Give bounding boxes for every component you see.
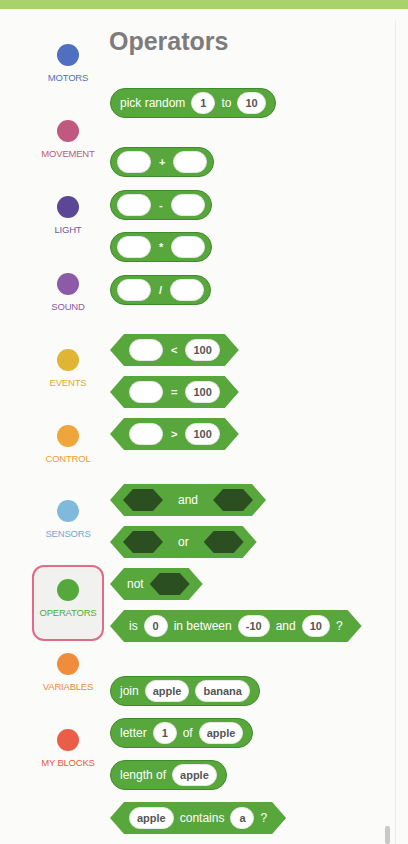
sidebar-item-sensors[interactable]: SENSORS [30,500,106,570]
sidebar-item-light[interactable]: LIGHT [30,196,106,266]
block-label: or [178,535,189,549]
operator-symbol: - [159,199,163,211]
sidebar-item-my-blocks[interactable]: MY BLOCKS [30,729,106,799]
divide-block[interactable]: / [110,275,211,305]
block-label: letter [120,726,147,740]
block-label: join [120,684,139,698]
right-boolean-slot[interactable] [204,531,244,553]
right-input[interactable] [170,279,204,301]
subtract-block[interactable]: - [110,190,212,220]
operator-symbol: < [171,344,177,356]
operator-symbol: * [159,241,163,253]
left-input[interactable] [117,236,151,258]
right-input[interactable] [171,236,205,258]
block-label: is [129,619,138,633]
left-boolean-slot[interactable] [123,489,163,511]
sidebar-item-label: MOTORS [20,72,116,83]
value-input[interactable]: 0 [144,615,168,637]
block-label: of [183,726,193,740]
category-color-dot-icon [57,729,79,751]
operator-symbol: / [159,284,162,296]
right-boolean-slot[interactable] [213,489,253,511]
sidebar-item-sound[interactable]: SOUND [30,273,106,343]
pick-random-block[interactable]: pick random 1 to 10 [110,88,276,118]
join-block[interactable]: join apple banana [110,676,260,706]
sidebar-item-variables[interactable]: VARIABLES [30,653,106,723]
palette-divider [395,20,396,844]
sidebar-item-label: CONTROL [20,453,116,464]
word-input[interactable]: apple [172,764,217,786]
category-sidebar: MOTORSMOVEMENTLIGHTSOUNDEVENTSCONTROLSEN… [0,9,106,844]
left-input[interactable] [129,381,163,403]
right-input[interactable] [171,194,205,216]
block-palette: Operators pick random 1 to 10 + - * / < … [106,9,396,844]
block-label: and [276,619,296,633]
right-input[interactable] [173,151,207,173]
operator-symbol: > [171,428,177,440]
and-block[interactable]: and [110,484,266,516]
sidebar-item-label: EVENTS [20,377,116,388]
first-input[interactable]: apple [145,680,190,702]
top-bar [0,0,408,9]
word-input[interactable]: apple [129,807,174,829]
left-input[interactable] [117,194,151,216]
char-input[interactable]: a [230,807,254,829]
add-block[interactable]: + [110,147,214,177]
block-label: to [221,96,231,110]
palette-title: Operators [109,27,228,56]
sidebar-item-label: VARIABLES [20,681,116,692]
right-input[interactable]: 100 [185,339,219,361]
letter-of-block[interactable]: letter 1 of apple [110,718,253,748]
block-label: ? [336,619,343,633]
category-color-dot-icon [57,196,79,218]
sidebar-item-label: MOVEMENT [20,148,116,159]
right-input[interactable]: 100 [185,423,219,445]
sidebar-item-movement[interactable]: MOVEMENT [30,120,106,190]
category-color-dot-icon [57,653,79,675]
category-color-dot-icon [57,44,79,66]
left-input[interactable] [129,423,163,445]
left-input[interactable] [117,151,151,173]
left-input[interactable] [117,279,151,301]
block-label: and [178,493,198,507]
contains-block[interactable]: apple contains a ? [110,802,286,834]
category-color-dot-icon [57,349,79,371]
category-color-dot-icon [57,500,79,522]
category-color-dot-icon [57,579,79,601]
word-input[interactable]: apple [199,722,244,744]
in-between-block[interactable]: is 0 in between -10 and 10 ? [110,610,362,642]
second-input[interactable]: banana [195,680,250,702]
sidebar-item-operators[interactable]: OPERATORS [32,565,104,641]
block-label: contains [180,811,225,825]
less-than-block[interactable]: < 100 [110,334,239,366]
equals-block[interactable]: = 100 [110,376,239,408]
operator-symbol: + [159,156,165,168]
block-label: pick random [120,96,185,110]
multiply-block[interactable]: * [110,232,212,262]
left-boolean-slot[interactable] [123,531,163,553]
sidebar-item-label: OPERATORS [26,607,110,618]
not-block[interactable]: not [110,568,203,600]
scrollbar-handle[interactable] [385,826,390,844]
low-input[interactable]: -10 [238,615,270,637]
sidebar-item-label: MY BLOCKS [20,757,116,768]
block-label: in between [174,619,232,633]
sidebar-item-events[interactable]: EVENTS [30,349,106,419]
sidebar-item-label: SENSORS [20,528,116,539]
length-of-block[interactable]: length of apple [110,760,227,790]
block-label: ? [260,811,267,825]
greater-than-block[interactable]: > 100 [110,418,239,450]
sidebar-item-motors[interactable]: MOTORS [30,44,106,114]
left-input[interactable] [129,339,163,361]
sidebar-item-control[interactable]: CONTROL [30,425,106,495]
boolean-slot[interactable] [150,573,190,595]
or-block[interactable]: or [110,526,257,558]
category-color-dot-icon [57,120,79,142]
high-input[interactable]: 10 [302,615,330,637]
right-input[interactable]: 100 [185,381,219,403]
to-input[interactable]: 10 [237,92,265,114]
index-input[interactable]: 1 [153,722,177,744]
operator-symbol: = [171,386,177,398]
from-input[interactable]: 1 [191,92,215,114]
block-label: length of [120,768,166,782]
